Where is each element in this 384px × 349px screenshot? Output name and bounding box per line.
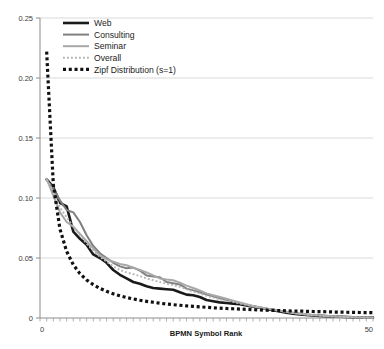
y-tick-label: 0.25 (18, 14, 33, 23)
y-tick-label: 0.10 (18, 194, 33, 203)
legend-label-web: Web (94, 18, 112, 28)
y-tick-label: 0 (29, 314, 33, 323)
plot-background (40, 18, 373, 318)
legend-label-overall: Overall (94, 53, 121, 63)
x-axis-title: BPMN Symbol Rank (170, 329, 243, 338)
chart-container: 00.050.100.150.200.25 050 BPMN Symbol Ra… (0, 0, 384, 349)
x-tick-label: 50 (365, 325, 373, 334)
legend-label-consulting: Consulting (94, 30, 135, 40)
y-axis-tick-labels: 00.050.100.150.200.25 (18, 14, 33, 323)
y-tick-label: 0.15 (18, 134, 33, 143)
y-tick-label: 0.20 (18, 74, 33, 83)
legend-label-zipf-distribution-s-1: Zipf Distribution (s=1) (94, 65, 176, 75)
line-chart: 00.050.100.150.200.25 050 BPMN Symbol Ra… (0, 0, 384, 349)
y-tick-label: 0.05 (18, 254, 33, 263)
x-axis-ticks (40, 318, 373, 322)
legend-label-seminar: Seminar (94, 41, 126, 51)
y-axis-ticks (36, 18, 40, 318)
x-tick-label: 0 (40, 325, 44, 334)
